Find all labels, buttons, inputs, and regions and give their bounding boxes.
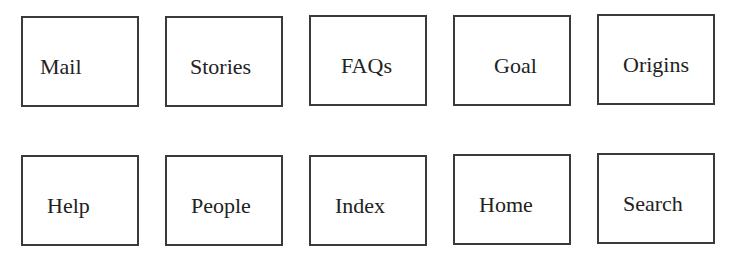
nav-label-people: People [191,195,251,217]
nav-label-origins: Origins [623,54,689,76]
nav-box-home[interactable]: Home [453,154,571,245]
nav-box-people[interactable]: People [165,155,283,246]
nav-box-goal[interactable]: Goal [453,15,571,106]
nav-box-origins[interactable]: Origins [597,14,715,105]
nav-label-home: Home [479,194,533,216]
nav-label-index: Index [335,195,385,217]
nav-label-help: Help [47,195,90,217]
nav-label-search: Search [623,193,683,215]
nav-box-search[interactable]: Search [597,153,715,244]
nav-box-mail[interactable]: Mail [21,16,139,107]
nav-label-stories: Stories [190,56,251,78]
nav-label-goal: Goal [494,55,537,77]
nav-box-index[interactable]: Index [309,155,427,246]
nav-box-help[interactable]: Help [21,155,139,246]
nav-label-mail: Mail [40,56,82,78]
nav-box-faqs[interactable]: FAQs [309,15,427,106]
nav-box-stories[interactable]: Stories [165,16,283,107]
nav-label-faqs: FAQs [341,55,392,77]
